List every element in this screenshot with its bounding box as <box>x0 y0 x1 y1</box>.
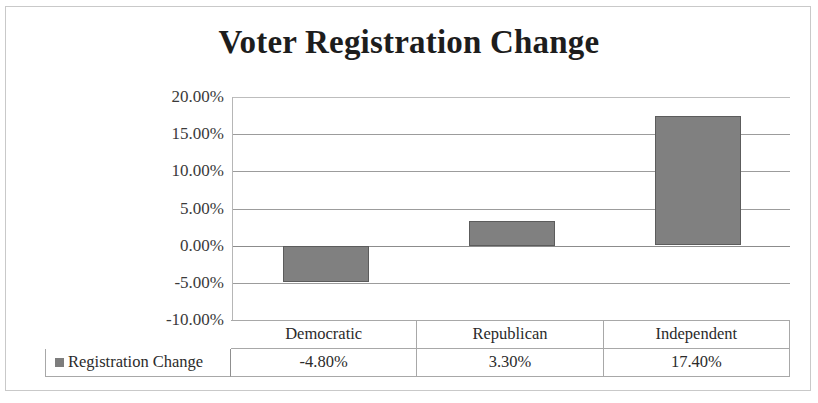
table-corner-cell <box>45 320 231 349</box>
gridline--500 <box>233 283 790 284</box>
y-axis: 20.00%15.00%10.00%5.00%0.00%-5.00%-10.00… <box>100 97 224 320</box>
table-value-cell-2: 17.40% <box>604 349 790 378</box>
bar-republican <box>469 221 555 246</box>
bar-democratic <box>283 246 369 282</box>
table-header-cell-0: Democratic <box>231 320 417 349</box>
chart-canvas: Voter Registration Change 20.00%15.00%10… <box>0 0 818 403</box>
y-axis-tick-label: 10.00% <box>104 161 224 181</box>
table-header-row: Democratic Republican Independent <box>45 320 790 349</box>
y-axis-tick-label: 15.00% <box>104 124 224 144</box>
gridline-2000 <box>233 97 790 98</box>
table-value-cell-1: 3.30% <box>417 349 603 378</box>
y-axis-tick-label: 0.00% <box>104 236 224 256</box>
chart-title: Voter Registration Change <box>0 24 818 61</box>
series-color-swatch-icon <box>55 358 64 367</box>
data-table: Democratic Republican Independent Regist… <box>45 320 790 377</box>
legend-entry: Registration Change <box>45 349 231 378</box>
y-axis-tick-label: 20.00% <box>104 87 224 107</box>
table-value-row: Registration Change -4.80% 3.30% 17.40% <box>45 349 790 378</box>
table-header-cell-1: Republican <box>417 320 603 349</box>
table-header-cell-2: Independent <box>604 320 790 349</box>
y-axis-tick-label: 5.00% <box>104 199 224 219</box>
bar-independent <box>655 116 741 245</box>
table-value-cell-0: -4.80% <box>231 349 417 378</box>
y-axis-tick-label: -5.00% <box>104 273 224 293</box>
plot-area <box>232 97 790 320</box>
legend-label: Registration Change <box>68 352 203 372</box>
